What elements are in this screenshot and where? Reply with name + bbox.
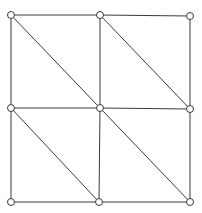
node-n12	[187, 106, 194, 113]
edge-n11-n22	[100, 108, 190, 202]
node-n02	[187, 13, 194, 20]
edge-n00-n11	[11, 15, 100, 108]
node-n11	[97, 105, 104, 112]
edge-n11-n12	[100, 108, 190, 109]
edge-n10-n21	[11, 108, 99, 202]
node-n22	[187, 199, 194, 206]
edge-n01-n02	[100, 15, 190, 16]
mesh-diagram	[0, 0, 202, 213]
edge-n01-n12	[100, 15, 190, 109]
node-n00	[8, 12, 15, 19]
node-n10	[8, 105, 15, 112]
edge-n11-n21	[99, 108, 100, 202]
node-n01	[97, 12, 104, 19]
node-n21	[96, 199, 103, 206]
node-n20	[8, 199, 15, 206]
